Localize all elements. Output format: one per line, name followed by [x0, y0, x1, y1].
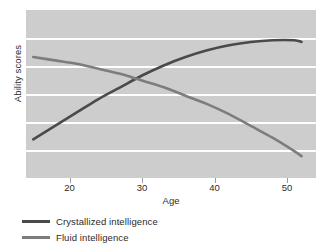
series-curves [26, 10, 316, 178]
series-line [33, 57, 301, 156]
x-axis-tick-label: 30 [127, 182, 157, 193]
y-axis-label: Ability scores [12, 19, 23, 129]
legend-item: Crystallized intelligence [22, 213, 322, 229]
x-axis-label: Age [26, 195, 316, 206]
x-axis-tick-label: 20 [55, 182, 85, 193]
legend-label: Crystallized intelligence [56, 216, 158, 227]
x-axis-tick-label: 50 [272, 182, 302, 193]
x-axis-tick-labels: 20304050 [26, 182, 316, 196]
chart-legend: Crystallized intelligenceFluid intellige… [22, 213, 322, 245]
plot-area [26, 10, 316, 178]
legend-label: Fluid intelligence [56, 232, 129, 243]
legend-line-swatch [22, 236, 50, 239]
legend-line-swatch [22, 220, 50, 223]
x-axis-tick-label: 40 [200, 182, 230, 193]
chart-figure: Ability scores 20304050 Age Crystallized… [0, 0, 324, 249]
legend-item: Fluid intelligence [22, 229, 322, 245]
